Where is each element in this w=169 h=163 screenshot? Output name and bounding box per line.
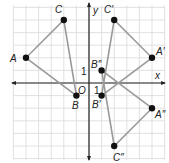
vertex-label-A: A bbox=[9, 53, 17, 64]
axes: x y O 1 1 bbox=[11, 2, 166, 161]
vertex-point-icon bbox=[73, 92, 79, 98]
vertex-point-icon bbox=[23, 55, 29, 61]
vertex-label-C-double-prime: C″ bbox=[113, 152, 124, 163]
vertex-label-A-prime: A′ bbox=[155, 46, 166, 57]
vertex-label-B-double-prime: B″ bbox=[91, 59, 102, 70]
x-axis-arrow-right-icon bbox=[161, 81, 166, 85]
vertex-point-icon bbox=[111, 17, 117, 23]
vertex-point-icon bbox=[61, 17, 67, 23]
y-axis-label: y bbox=[92, 5, 99, 16]
vertex-label-B-prime: B′ bbox=[92, 99, 102, 110]
vertex-label-C: C bbox=[55, 4, 63, 15]
vertex-point-icon bbox=[98, 92, 104, 98]
vertex-label-C-prime: C′ bbox=[104, 4, 114, 15]
x-axis-label: x bbox=[154, 70, 161, 81]
vertex-point-icon bbox=[111, 143, 117, 149]
coordinate-plane-diagram: x y O 1 1 A B C A′ B′ C′ A″ B″ C″ bbox=[0, 0, 169, 163]
y-tick-label-1: 1 bbox=[81, 66, 87, 77]
vertex-point-icon bbox=[149, 55, 155, 61]
y-axis-arrow-up-icon bbox=[87, 2, 91, 7]
vertex-label-A-double-prime: A″ bbox=[154, 109, 166, 120]
vertex-label-B: B bbox=[72, 100, 79, 111]
